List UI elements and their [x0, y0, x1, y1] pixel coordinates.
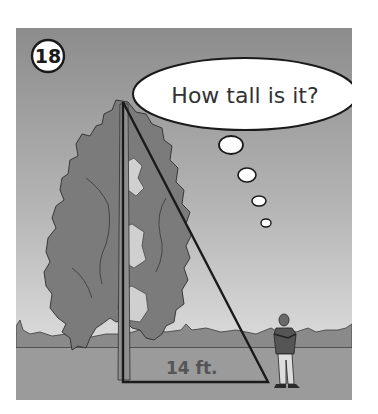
person-head [279, 314, 289, 326]
thought-circle-small [252, 196, 266, 206]
problem-number: 18 [35, 45, 61, 67]
thought-circle-tiny [261, 219, 271, 227]
person-legs [278, 354, 294, 384]
thought-circle-medium [238, 168, 256, 182]
illustration-panel: 14 ft. How tall is it? 18 [16, 28, 352, 400]
base-length-label: 14 ft. [166, 358, 218, 378]
thought-bubble-text: How tall is it? [171, 83, 318, 108]
thought-circle-large [219, 136, 243, 154]
person-torso [274, 328, 296, 354]
